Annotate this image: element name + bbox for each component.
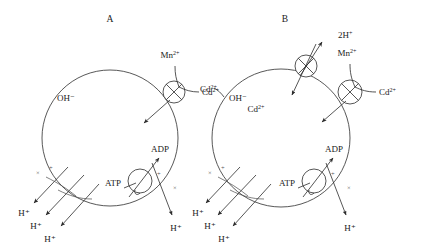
proton-label-a-3: H⁺ [44,234,56,244]
pump-cross-mark-a: × [173,184,177,191]
proton-label-a-1: H⁺ [18,208,30,218]
figure-container: A OH⁻ Mn2+ Cd2+ ADP ATP H⁺ + × [0,0,421,252]
mn-cd-transporter-b[interactable] [338,80,362,104]
mn-cd-transporter-a[interactable] [163,81,185,103]
atp-synthase-b[interactable] [302,169,326,194]
proton-label-b-2: H⁺ [204,221,216,231]
polarity-plus-a: + [49,164,53,171]
panel-a-label: A [107,14,114,24]
adp-label-a: ADP [151,144,169,154]
potential-line-b-1 [218,177,248,196]
mn-label-b: Mn2+ [338,48,358,58]
polarity-cross-a: × [36,169,40,176]
two-proton-label-b: 2H+ [338,30,353,40]
pump-proton-label-a: H⁺ [170,223,182,233]
polarity-cross-b: × [208,169,212,176]
pump-cross-mark-b: × [347,184,351,191]
panel-b-label: B [282,14,288,24]
proton-efflux-arrow-b-2 [218,175,256,215]
adp-label-b: ADP [325,144,343,154]
polarity-plus-b: + [221,164,225,171]
panel-a: A OH⁻ Mn2+ Cd2+ ADP ATP H⁺ + × [18,14,219,244]
transport-diagram: A OH⁻ Mn2+ Cd2+ ADP ATP H⁺ + × [0,0,421,252]
mn-label-a: Mn2+ [161,50,181,60]
proton-label-b-1: H⁺ [192,208,204,218]
cd-influx-arrow-a [144,100,170,123]
atp-synthase-a[interactable] [128,169,152,194]
proton-efflux-arrow-a-2 [46,175,84,215]
potential-line-a-1 [46,177,76,196]
cd-label-b: Cd2+ [379,87,397,97]
cd-influx-arrow-b [322,101,346,122]
internal-cd-label-b: Cd2+ [248,104,266,114]
pump-proton-arrow-b [326,163,346,215]
pump-plus-mark-b: + [331,170,335,177]
panel-b: B OH⁻ Cd2+ 2H+ Cd2+ Mn2+ Cd2+ AD [192,14,396,244]
proton-label-a-2: H⁺ [30,221,42,231]
atp-label-a: ATP [105,178,121,188]
pump-plus-mark-a: + [157,170,161,177]
proton-label-b-3: H⁺ [218,234,230,244]
pump-proton-label-b: H⁺ [344,223,356,233]
atp-label-b: ATP [279,178,295,188]
hydroxide-label-b: OH⁻ [229,93,247,103]
hydroxide-label-a: OH⁻ [57,93,75,103]
